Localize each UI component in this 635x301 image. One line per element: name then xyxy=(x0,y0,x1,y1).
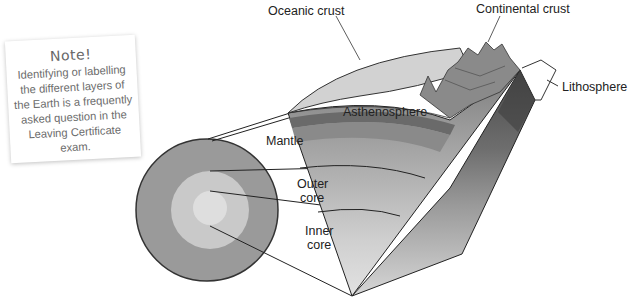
label-continental-crust: Continental crust xyxy=(476,2,570,17)
label-inner-core-2: core xyxy=(307,238,331,253)
label-asthenosphere: Asthenosphere xyxy=(343,105,427,120)
inner-core-ring xyxy=(193,191,227,225)
earth-disc xyxy=(136,139,278,281)
label-lithosphere: Lithosphere xyxy=(562,80,627,95)
label-oceanic-crust: Oceanic crust xyxy=(268,4,344,19)
label-outer-core-2: core xyxy=(300,191,324,206)
continental-crust-leader xyxy=(488,16,500,42)
note-body: Identifying or labelling the different l… xyxy=(6,62,141,159)
label-inner-core-1: Inner xyxy=(305,224,334,239)
label-outer-core-1: Outer xyxy=(297,177,328,192)
oceanic-crust-leader xyxy=(336,16,360,60)
label-mantle: Mantle xyxy=(266,134,304,149)
note-card: Note! Identifying or labelling the diffe… xyxy=(5,35,141,164)
earth-layers-diagram: Note! Identifying or labelling the diffe… xyxy=(0,0,635,301)
